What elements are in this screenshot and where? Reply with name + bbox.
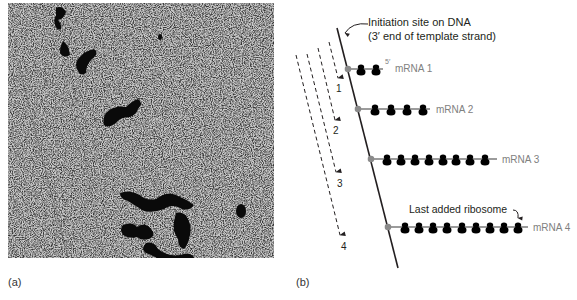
last-ribosome-pointer-icon bbox=[513, 210, 518, 218]
initiation-site-dot bbox=[345, 66, 352, 73]
mrna-3-label: mRNA 3 bbox=[502, 154, 540, 165]
mrna-1 bbox=[345, 64, 383, 75]
mrna-2-label: mRNA 2 bbox=[436, 104, 474, 115]
time-label-4: 4 bbox=[341, 241, 347, 252]
last-added-ribosome-label: Last added ribosome bbox=[409, 203, 507, 215]
initiation-label-line2: (3′ end of template strand) bbox=[368, 30, 496, 42]
mrna-3 bbox=[368, 154, 497, 165]
mrna-2 bbox=[355, 104, 430, 115]
panel-label-b: (b) bbox=[296, 276, 309, 288]
initiation-label-line1: Initiation site on DNA bbox=[368, 16, 471, 28]
initiation-pointer-icon bbox=[345, 24, 368, 33]
time-arrows bbox=[296, 42, 340, 235]
time-label-2: 2 bbox=[333, 125, 339, 136]
time-label-1: 1 bbox=[336, 83, 342, 94]
mrna-1-label: mRNA 1 bbox=[395, 63, 433, 74]
mrna-4-label: mRNA 4 bbox=[533, 222, 571, 233]
five-prime-label: 5′ bbox=[385, 58, 391, 65]
time-label-3: 3 bbox=[337, 178, 343, 189]
transcription-diagram: 1 2 3 4 bbox=[0, 0, 577, 300]
